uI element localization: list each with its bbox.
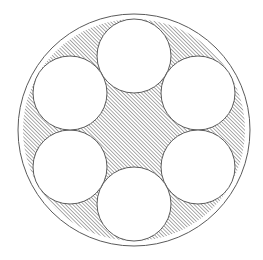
- inner-circle-4: [33, 130, 107, 204]
- inner-circle-0: [97, 19, 171, 93]
- geometric-figure-container: [0, 0, 263, 260]
- inner-circle-5: [33, 56, 107, 130]
- inner-circle-3: [97, 167, 171, 241]
- inner-circle-2: [161, 130, 235, 204]
- inner-circle-1: [161, 56, 235, 130]
- geometry-diagram: [0, 0, 263, 260]
